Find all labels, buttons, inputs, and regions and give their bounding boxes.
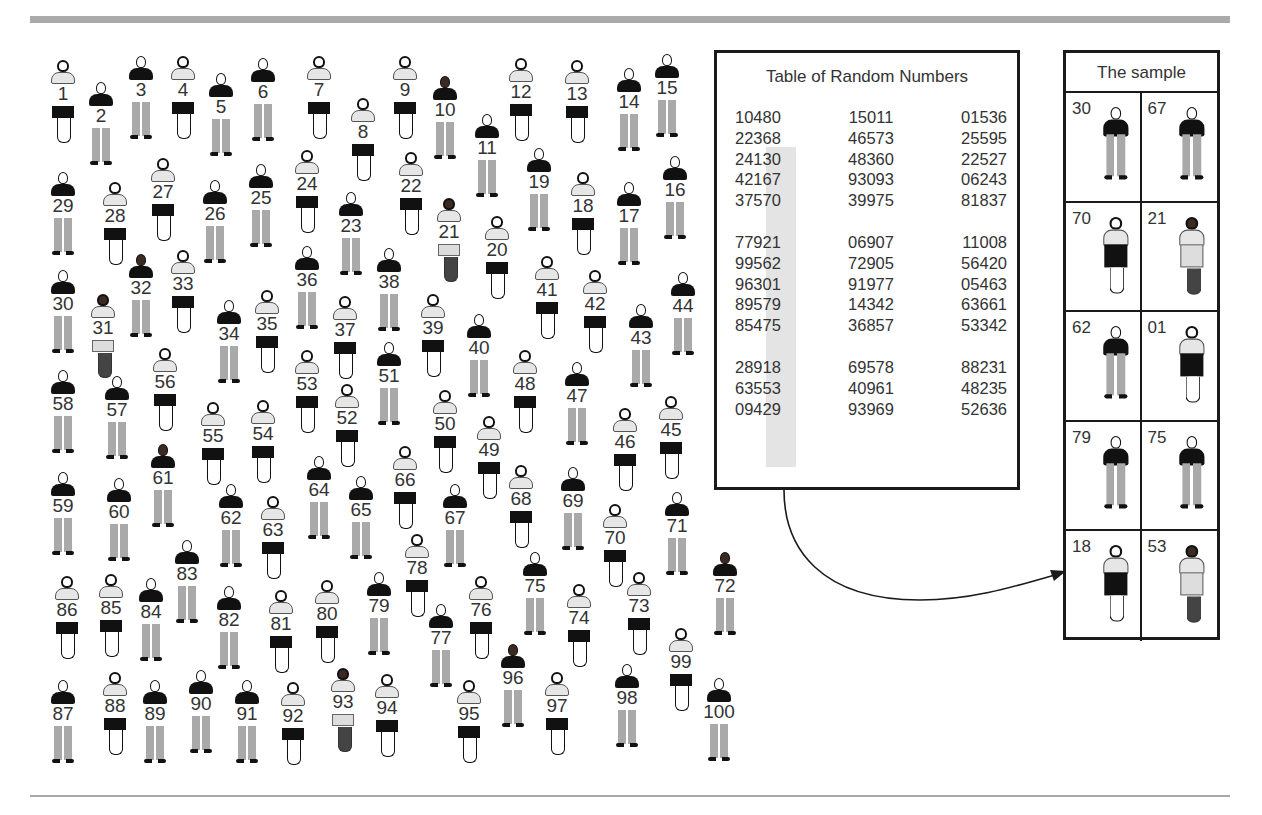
head-icon [541, 256, 553, 268]
legs-icon [154, 490, 172, 524]
legs-icon [470, 622, 492, 634]
legs-icon [584, 316, 606, 328]
legs-icon [530, 194, 548, 228]
legs-icon [628, 618, 650, 630]
legs-icon [394, 102, 416, 114]
woman-figure: 13 [560, 60, 594, 144]
person-number: 28 [92, 206, 138, 226]
legs-icon [510, 511, 532, 523]
sample-number: 62 [1072, 318, 1091, 338]
person-number: 39 [410, 318, 456, 338]
person-number: 42 [572, 294, 618, 314]
man-figure: 10 [428, 76, 462, 160]
woman-figure: 22 [394, 152, 428, 236]
legs-icon [614, 454, 636, 466]
head-icon [341, 384, 353, 396]
woman-figure: 53 [290, 350, 324, 434]
person-number: 81 [258, 614, 304, 634]
legs-icon [110, 524, 128, 558]
legs-icon [132, 300, 150, 334]
random-number: 89579 [735, 294, 795, 315]
man-figure: 62 [214, 484, 248, 568]
legs-icon [192, 716, 210, 750]
head-icon [508, 644, 518, 656]
man-figure: 61 [146, 444, 180, 528]
legs-icon [432, 650, 450, 684]
person-number: 9 [382, 80, 428, 100]
legs-icon [1104, 572, 1127, 595]
legs-icon [296, 196, 318, 208]
head-icon [573, 584, 585, 596]
random-number: 56420 [947, 253, 1007, 274]
legs-icon [152, 204, 174, 216]
man-figure: 57 [100, 376, 134, 460]
person-number: 37 [322, 320, 368, 340]
head-icon [515, 465, 527, 477]
woman-figure: 76 [464, 576, 498, 660]
man-figure: 60 [102, 478, 136, 562]
legs-icon [1106, 463, 1125, 505]
legs-icon [504, 690, 522, 724]
person-number: 21 [426, 222, 472, 242]
man-figure: 90 [184, 670, 218, 754]
head-icon [1185, 217, 1198, 230]
person-number: 91 [224, 704, 270, 724]
person-number: 6 [240, 82, 286, 102]
random-number: 37570 [735, 190, 795, 211]
head-icon [177, 250, 189, 262]
legs-icon [252, 446, 274, 458]
head-icon [405, 152, 417, 164]
legs-icon [1182, 463, 1201, 505]
random-table-title: Table of Random Numbers [717, 67, 1017, 87]
random-number-row: 854753685753342 [735, 315, 1007, 336]
woman-figure: 9 [388, 56, 422, 140]
person-number: 65 [338, 500, 384, 520]
man-figure: 40 [462, 314, 496, 398]
random-number: 40961 [831, 378, 911, 399]
head-icon [1111, 107, 1122, 120]
selection-arrow-icon [780, 488, 1070, 608]
legs-icon [478, 160, 496, 194]
person-number: 84 [128, 602, 174, 622]
legs-icon [394, 492, 416, 504]
legs-icon [254, 104, 272, 138]
random-number: 53342 [947, 315, 1007, 336]
bottom-rule [30, 795, 1230, 797]
woman-figure: 92 [276, 682, 310, 766]
legs-icon [486, 262, 508, 274]
random-number: 24130 [735, 149, 795, 170]
man-figure: 71 [660, 492, 694, 576]
head-icon [301, 350, 313, 362]
head-icon [384, 248, 394, 260]
random-number-row: 289186957888231 [735, 357, 1007, 378]
woman-figure: 70 [1098, 217, 1134, 305]
random-number-grid: 1048015011015362236846573255952413048360… [735, 107, 1007, 440]
random-number-row: 895791434263661 [735, 294, 1007, 315]
man-figure: 75 [1174, 436, 1210, 524]
legs-icon [376, 720, 398, 732]
sample-box: The sample 30306767707021216262010179797… [1063, 50, 1220, 640]
man-figure: 65 [344, 476, 378, 560]
person-number: 62 [208, 508, 254, 528]
head-icon [624, 68, 634, 80]
random-number: 22368 [735, 128, 795, 149]
person-number: 32 [118, 278, 164, 298]
man-figure: 38 [372, 248, 406, 332]
head-icon [1186, 436, 1197, 449]
head-icon [624, 182, 634, 194]
legs-icon [658, 100, 676, 134]
legs-icon [54, 416, 72, 450]
random-number: 01536 [947, 107, 1007, 128]
head-icon [670, 156, 680, 168]
legs-icon [56, 622, 78, 634]
legs-icon [546, 718, 568, 730]
legs-icon [104, 228, 126, 240]
woman-figure: 54 [246, 400, 280, 484]
legs-icon [1180, 244, 1203, 267]
head-icon [475, 576, 487, 588]
legs-icon [222, 530, 240, 564]
woman-figure: 42 [578, 270, 612, 354]
man-figure: 11 [470, 114, 504, 198]
person-number: 51 [366, 366, 412, 386]
sample-cell: 3030 [1066, 93, 1142, 203]
